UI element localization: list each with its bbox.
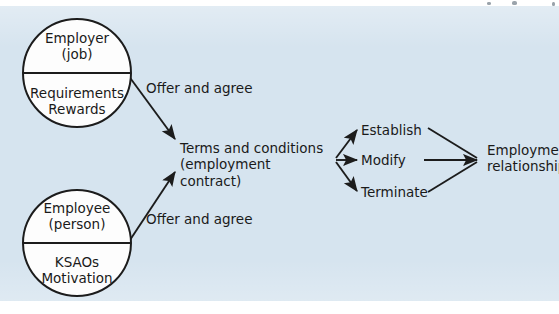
node-employer-rewards: Rewards bbox=[48, 102, 105, 118]
node-employee-bottom: KSAOs Motivation bbox=[24, 243, 130, 297]
node-employee: Employee (person) KSAOs Motivation bbox=[22, 189, 132, 297]
node-employee-title: Employee bbox=[44, 201, 111, 217]
node-employee-subtitle: (person) bbox=[49, 217, 106, 233]
diagram-canvas: Employer (job) Requirements Rewards Empl… bbox=[0, 0, 559, 314]
node-contract: Terms and conditions (employment contrac… bbox=[180, 140, 336, 189]
action-modify: Modify bbox=[361, 152, 406, 168]
edge-establish-to-outcome bbox=[428, 128, 477, 158]
edge-employee-to-contract bbox=[128, 172, 175, 243]
node-contract-line1: Terms and conditions bbox=[180, 140, 336, 156]
node-outcome-line2: relationship bbox=[487, 158, 559, 174]
node-employee-ksaos: KSAOs bbox=[55, 255, 99, 271]
node-employee-top: Employee (person) bbox=[24, 191, 130, 245]
edge-label-employee-offer: Offer and agree bbox=[146, 211, 252, 227]
node-employer-subtitle: (job) bbox=[61, 47, 92, 63]
node-employer: Employer (job) Requirements Rewards bbox=[22, 18, 132, 128]
node-employer-top: Employer (job) bbox=[24, 20, 130, 75]
node-outcome-line1: Employment bbox=[487, 142, 559, 158]
node-contract-line2: (employment contract) bbox=[180, 156, 336, 189]
edge-label-employer-offer: Offer and agree bbox=[146, 80, 252, 96]
node-outcome: Employment relationship bbox=[487, 142, 559, 175]
node-employer-bottom: Requirements Rewards bbox=[24, 73, 130, 128]
action-terminate: Terminate bbox=[361, 184, 428, 200]
node-employee-motivation: Motivation bbox=[41, 271, 112, 287]
node-employer-title: Employer bbox=[45, 31, 109, 47]
action-establish: Establish bbox=[361, 122, 422, 138]
edge-contract-to-terminate bbox=[336, 162, 357, 191]
edge-terminate-to-outcome bbox=[428, 162, 477, 192]
node-employer-requirements: Requirements bbox=[30, 86, 124, 102]
edge-contract-to-establish bbox=[336, 130, 357, 158]
